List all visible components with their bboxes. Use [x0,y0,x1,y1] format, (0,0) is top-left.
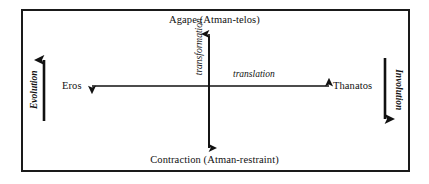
axis-label-transformation-box: transformation [140,40,260,54]
side-label-evolution-box: Evolution [0,83,73,97]
side-label-involution-box: Involution [360,83,429,97]
pole-label-bottom: Contraction (Atman-restraint) [0,155,429,166]
side-label-involution: Involution [394,69,404,110]
axis-label-translation: translation [233,70,275,80]
pole-label-top: Agape (Atman-telos) [0,15,429,26]
side-label-evolution: Evolution [29,71,39,110]
atman-axes-diagram: Agape (Atman-telos) Contraction (Atman-r… [0,0,429,184]
axis-label-transformation: transformation [195,18,205,75]
